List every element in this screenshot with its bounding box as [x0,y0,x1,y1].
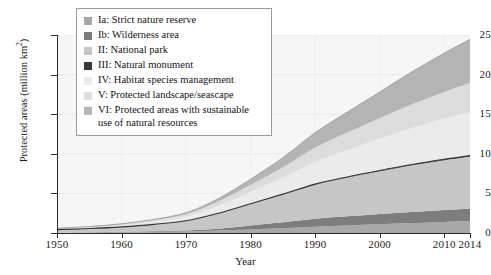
x-tick-label: 1950 [27,239,87,250]
legend-item-label: Ib: Wilderness area [98,29,179,42]
legend-item[interactable]: III: Natural monument [84,59,265,72]
y-axis-line [57,35,58,234]
y-tick-label: 0 [445,227,491,238]
y-tick-label: 20 [445,69,491,80]
legend-swatch-icon [84,77,92,85]
y-tick-mark [51,35,57,36]
y-tick-mark [51,75,57,76]
chart-root: 0510152025 19501960197019801990200020102… [0,0,491,275]
legend-item[interactable]: V: Protected landscape/seascape [84,89,265,102]
y-axis-title-close: ) [18,39,29,43]
legend-item-label: III: Natural monument [98,59,193,72]
legend-item[interactable]: Ib: Wilderness area [84,29,265,42]
x-tick-label: 2014 [440,239,491,250]
y-axis-title: Protected areas (million km2) [18,16,29,186]
y-axis-title-main: Protected areas (million km [18,46,29,162]
legend-item-label: V: Protected landscape/seascape [98,89,234,102]
x-axis-line [57,233,471,234]
y-tick-mark [51,193,57,194]
legend-item-label: Ia: Strict nature reserve [98,14,196,27]
y-axis-title-superscript: 2 [15,42,24,46]
legend-swatch-icon [84,17,92,25]
x-tick-label: 1990 [285,239,345,250]
legend-item[interactable]: VI: Protected areas with sustainable use… [84,104,265,129]
legend-item-label: VI: Protected areas with sustainable use… [98,104,249,129]
legend-swatch-icon [84,47,92,55]
chart-legend: Ia: Strict nature reserveIb: Wilderness … [76,8,272,136]
legend-swatch-icon [84,92,92,100]
y-tick-mark [51,114,57,115]
y-tick-label: 25 [445,29,491,40]
x-tick-label: 1970 [156,239,216,250]
y-tick-label: 15 [445,108,491,119]
legend-swatch-icon [84,62,92,70]
legend-item[interactable]: IV: Habitat species management [84,74,265,87]
legend-swatch-icon [84,32,92,40]
x-axis-title: Year [0,256,491,267]
legend-item[interactable]: II: National park [84,44,265,57]
x-tick-label: 1980 [221,239,281,250]
x-tick-label: 2000 [350,239,410,250]
y-tick-label: 5 [445,187,491,198]
legend-item[interactable]: Ia: Strict nature reserve [84,14,265,27]
y-tick-mark [51,154,57,155]
y-tick-label: 10 [445,148,491,159]
legend-item-label: IV: Habitat species management [98,74,234,87]
legend-swatch-icon [84,107,92,115]
legend-item-label: II: National park [98,44,168,57]
x-tick-label: 1960 [92,239,152,250]
